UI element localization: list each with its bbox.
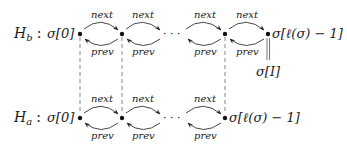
prev-arrow <box>85 123 118 130</box>
next-arrow <box>84 106 118 114</box>
prev-label: prev <box>236 46 259 57</box>
first-node-label-hb: σ[0] <box>47 26 75 41</box>
next-arrow <box>229 22 264 30</box>
node-hb-2 <box>223 32 227 36</box>
row-label-ha: Ha: <box>13 109 41 127</box>
prev-arrow <box>127 123 160 130</box>
first-node-label-ha: σ[0] <box>47 110 75 125</box>
prev-label: prev <box>194 46 217 57</box>
node-ha-0 <box>78 116 82 120</box>
prev-arrow <box>188 123 221 130</box>
next-arrow <box>126 106 160 114</box>
prev-label: prev <box>91 46 114 57</box>
prev-arrow <box>188 39 221 46</box>
next-label: next <box>132 9 155 20</box>
row-ha: Ha: σ[0] next prev next prev · · · next … <box>13 93 301 141</box>
next-label: next <box>91 93 114 104</box>
next-label: next <box>132 93 155 104</box>
next-arrow <box>126 22 160 30</box>
row-hb: Hb: σ[0] next prev next prev · · · next … <box>13 9 344 79</box>
sigma-i-label: σ[I] <box>256 64 281 79</box>
linked-list-diagram: Hb: σ[0] next prev next prev · · · next … <box>0 0 347 153</box>
ellipsis: · · · <box>163 28 180 41</box>
node-hb-0 <box>78 32 82 36</box>
next-label: next <box>194 9 217 20</box>
prev-label: prev <box>194 130 217 141</box>
prev-label: prev <box>132 130 155 141</box>
node-hb-last <box>266 32 270 36</box>
next-arrow <box>186 106 221 114</box>
row-label-hb: Hb: <box>13 25 41 43</box>
prev-arrow <box>85 39 118 46</box>
next-arrow <box>186 22 221 30</box>
prev-label: prev <box>91 130 114 141</box>
last-node-label-hb: σ[ℓ(σ) − 1] <box>272 26 344 41</box>
next-arrow <box>84 22 118 30</box>
last-node-label-ha: σ[ℓ(σ) − 1] <box>229 110 301 125</box>
ellipsis: · · · <box>163 112 180 125</box>
node-hb-1 <box>120 32 124 36</box>
prev-arrow <box>127 39 160 46</box>
next-label: next <box>91 9 114 20</box>
next-label: next <box>236 9 259 20</box>
node-ha-last <box>223 116 227 120</box>
prev-arrow <box>230 39 264 46</box>
node-ha-1 <box>120 116 124 120</box>
next-label: next <box>194 93 217 104</box>
prev-label: prev <box>132 46 155 57</box>
